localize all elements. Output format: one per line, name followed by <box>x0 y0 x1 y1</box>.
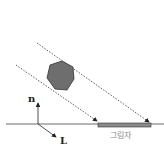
shadow-diagram: n L 그림자 <box>0 0 164 150</box>
shadow-rect <box>98 123 151 127</box>
diagram-graphics <box>0 0 164 150</box>
light-label: L <box>60 135 67 146</box>
occluder-hexagon <box>47 61 74 90</box>
normal-label: n <box>28 93 35 104</box>
light-vector-arrow <box>38 124 56 137</box>
shadow-label: 그림자 <box>110 129 131 140</box>
